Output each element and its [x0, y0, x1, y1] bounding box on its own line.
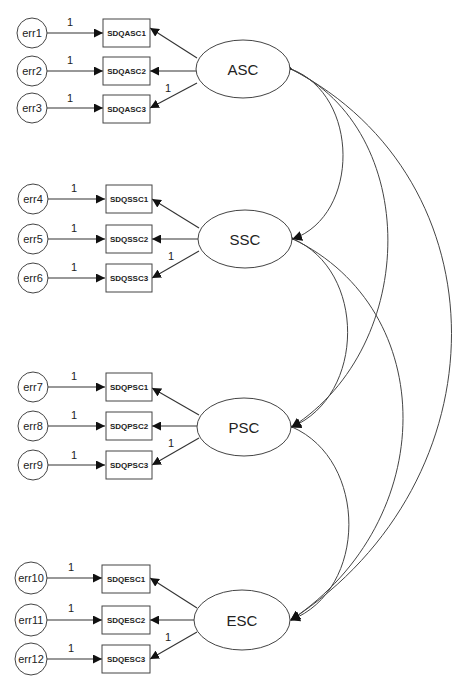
loading-weight-label: 1: [165, 82, 171, 94]
error-label: err10: [18, 572, 44, 584]
loading-path-sdqssc1: [152, 199, 199, 228]
error-label: err6: [23, 272, 43, 284]
factor-group-asc: err1 err2 err3 1 1 1 1 SDQASC1 SDQASC2 S…: [17, 16, 290, 123]
loading-weight-label: 1: [168, 250, 174, 262]
indicator-label: SDQPSC3: [110, 461, 149, 470]
path-weight-label: 1: [68, 642, 74, 654]
error-label: err5: [23, 233, 43, 245]
indicator-label: SDQASC2: [107, 67, 146, 76]
loading-path-sdqesc3: [150, 632, 197, 659]
covariance-asc-ssc: [291, 69, 343, 239]
indicator-label: SDQESC2: [107, 616, 146, 625]
path-weight-label: 1: [68, 561, 74, 573]
error-label: err7: [23, 381, 43, 393]
loading-weight-label: 1: [168, 437, 174, 449]
indicator-label: SDQPSC1: [110, 383, 149, 392]
path-weight-label: 1: [71, 182, 77, 194]
path-weight-label: 1: [68, 602, 74, 614]
indicator-label: SDQSSC2: [110, 235, 149, 244]
path-weight-label: 1: [71, 409, 77, 421]
loading-path-sdqasc3: [150, 83, 197, 108]
indicator-label: SDQASC3: [107, 105, 146, 114]
indicator-label: SDQESC1: [107, 575, 146, 584]
covariance-ssc-esc: [291, 239, 403, 620]
path-weight-label: 1: [71, 261, 77, 273]
indicator-label: SDQSSC3: [110, 274, 149, 283]
latent-label: SSC: [230, 231, 261, 248]
loading-path-sdqssc3: [152, 251, 199, 278]
indicator-label: SDQPSC2: [110, 422, 149, 431]
latent-label: ESC: [227, 612, 258, 629]
sem-path-diagram: err1 err2 err3 1 1 1 1 SDQASC1 SDQASC2 S…: [0, 0, 473, 688]
loading-path-sdqpsc1: [152, 388, 199, 415]
path-weight-label: 1: [67, 92, 73, 104]
path-weight-label: 1: [71, 222, 77, 234]
indicator-label: SDQESC3: [107, 655, 146, 664]
error-label: err2: [22, 65, 42, 77]
indicator-label: SDQASC1: [107, 29, 146, 38]
path-weight-label: 1: [71, 370, 77, 382]
error-label: err12: [18, 653, 44, 665]
error-label: err3: [22, 102, 42, 114]
error-label: err1: [22, 27, 42, 39]
path-weight-label: 1: [67, 16, 73, 28]
factor-group-ssc: err4 err5 err6 1 1 1 1 SDQSSC1 SDQSSC2 S…: [18, 182, 292, 293]
error-label: err4: [23, 193, 43, 205]
latent-label: PSC: [229, 419, 260, 436]
loading-path-sdqesc1: [150, 578, 197, 608]
loading-weight-label: 1: [165, 631, 171, 643]
covariance-asc-psc: [291, 69, 388, 427]
covariance-psc-esc: [291, 427, 349, 620]
loading-path-sdqpsc3: [152, 438, 199, 465]
indicator-label: SDQSSC1: [110, 195, 149, 204]
path-weight-label: 1: [71, 449, 77, 461]
covariance-ssc-psc: [292, 239, 348, 427]
loading-path-sdqasc1: [150, 28, 197, 58]
factor-group-psc: err7 err8 err9 1 1 1 1 SDQPSC1 SDQPSC2 S…: [18, 370, 291, 480]
path-weight-label: 1: [67, 54, 73, 66]
latent-label: ASC: [228, 61, 259, 78]
covariance-arcs: [291, 69, 452, 620]
factor-group-esc: err10 err11 err12 1 1 1 1 SDQESC1 SDQESC…: [15, 561, 290, 675]
error-label: err11: [19, 614, 44, 626]
error-label: err8: [23, 420, 43, 432]
error-label: err9: [23, 459, 43, 471]
covariance-asc-esc: [291, 69, 452, 620]
